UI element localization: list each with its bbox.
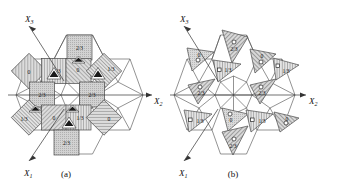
panel-caption-b: (b) xyxy=(228,169,239,179)
tile-label: 1/3 xyxy=(282,68,289,74)
figure-root: 2/3 0 1/3 0 1/3 2/3 xyxy=(0,0,341,187)
tile-square: 1/3 xyxy=(42,59,67,84)
tile-label: 1/3 xyxy=(196,118,203,124)
axis-label-x1: X1 xyxy=(23,168,33,179)
tile-label: 0 xyxy=(261,53,264,59)
tile-triangle: 1/3 xyxy=(273,58,299,80)
axis-arrow-x3 xyxy=(184,26,191,31)
open-square-marker xyxy=(276,64,280,68)
tile-square: 2/3 xyxy=(67,35,92,60)
tile-label: 2/3 xyxy=(76,45,83,51)
panel-caption-a: (a) xyxy=(61,169,71,179)
axis-arrow-x2 xyxy=(146,93,152,98)
open-circle-marker xyxy=(232,137,236,141)
tile-square: 2/3 xyxy=(54,130,79,155)
open-circle-marker xyxy=(259,60,263,64)
tile-label: 1/3 xyxy=(258,118,265,124)
open-circle-marker xyxy=(196,58,200,62)
axis-arrow-x2 xyxy=(300,93,306,98)
axis-label-x1: X1 xyxy=(178,168,188,179)
open-square-marker xyxy=(218,68,222,72)
axis-arrow-x1 xyxy=(184,156,191,161)
open-circle-marker xyxy=(228,112,232,116)
open-circle-marker xyxy=(232,40,236,44)
open-square-marker xyxy=(189,118,193,122)
tile-label: 0 xyxy=(77,67,80,73)
tile-label: 1/3 xyxy=(107,66,114,72)
axis-label-x3: X3 xyxy=(24,14,34,25)
tile-label: 2/3 xyxy=(229,143,236,149)
tile-label: 2/3 xyxy=(230,46,237,52)
tile-label: 2/3 xyxy=(63,140,70,146)
tile-triangle: 1/3 xyxy=(184,110,212,132)
panel-a-canvas: 2/3 0 1/3 0 1/3 2/3 xyxy=(0,0,171,187)
tile-triangle: 0 xyxy=(274,112,299,132)
tile-label: 0 xyxy=(230,117,233,123)
panel-b: 2/3 0 0 1/3 1/3 2/3 xyxy=(170,0,341,187)
tile-label: 1/3 xyxy=(76,115,83,121)
axis-arrow-x1 xyxy=(29,156,36,161)
tile-label: 0 xyxy=(28,69,31,75)
tile-triangle: 2/3 xyxy=(250,79,276,104)
tile-label: 0 xyxy=(53,115,56,121)
axis-label-x2: X2 xyxy=(308,96,318,107)
tile-label: 0 xyxy=(108,116,111,122)
tile-label: 0 xyxy=(286,116,289,122)
tile-square: 2/3 xyxy=(30,82,55,107)
panel-b-canvas: 2/3 0 0 1/3 1/3 2/3 xyxy=(170,0,341,187)
tile-label: 1/3 xyxy=(20,116,27,122)
axis-arrow-x3 xyxy=(29,26,36,31)
panel-a: 2/3 0 1/3 0 1/3 2/3 xyxy=(0,0,171,187)
tile-label: 0 xyxy=(198,52,201,58)
tile-triangle: 1/3 xyxy=(246,110,273,132)
tile-label: 1/3 xyxy=(224,67,231,73)
axis-label-x3: X3 xyxy=(179,14,189,25)
open-square-marker xyxy=(251,118,255,122)
tile-triangle: 2/3 xyxy=(222,126,248,155)
open-circle-marker xyxy=(259,85,263,89)
open-circle-marker xyxy=(198,85,202,89)
axis-label-x2: X2 xyxy=(153,96,163,107)
tile-square: 0 xyxy=(42,105,67,130)
